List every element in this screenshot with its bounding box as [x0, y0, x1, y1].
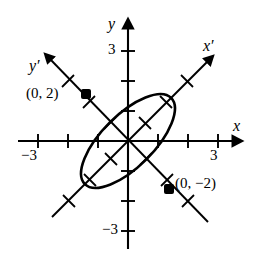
point-label-lower-right: (0, −2) — [175, 176, 216, 191]
x-axis-tick-label-positive: 3 — [210, 148, 218, 163]
point-marker-lower-right — [164, 184, 174, 194]
x-prime-axis-label: x′ — [203, 38, 214, 54]
point-label-upper-left: (0, 2) — [26, 86, 59, 101]
point-marker-upper-left — [81, 89, 91, 99]
x-axis-tick-label-negative: −3 — [21, 148, 37, 163]
conic-section-figure: y x x′ y′ 3 −3 3 −3 (0, 2) (0, −2) — [0, 0, 257, 260]
y-axis-tick-label-positive: 3 — [108, 42, 116, 57]
y-axis-tick-label-negative: −3 — [102, 222, 118, 237]
y-axis-label: y — [108, 16, 115, 32]
graph-canvas — [0, 0, 257, 260]
x-axis-label: x — [233, 118, 240, 134]
y-prime-axis-label: y′ — [29, 58, 40, 74]
